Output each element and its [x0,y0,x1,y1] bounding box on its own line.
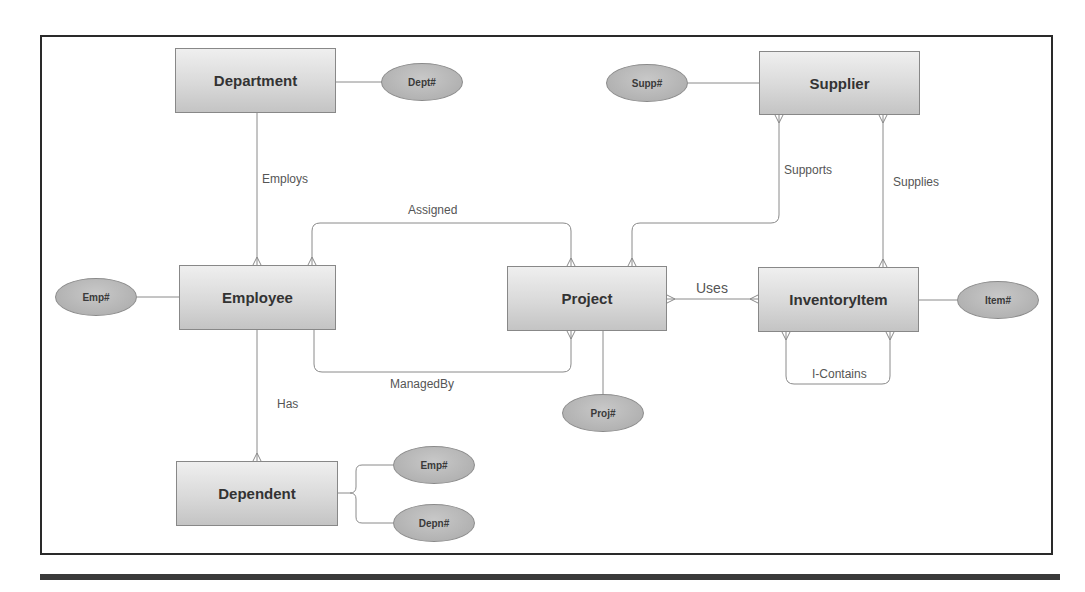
attribute-label: Emp# [82,292,109,303]
attribute-label: Proj# [590,408,615,419]
attribute-dept-key[interactable]: Dept# [381,63,463,101]
attribute-proj-key[interactable]: Proj# [562,394,644,432]
relationship-label-has: Has [277,397,298,411]
attribute-label: Supp# [632,78,663,89]
entity-department[interactable]: Department [175,48,336,113]
assigned-line [312,223,571,266]
attribute-emp-key[interactable]: Emp# [55,278,137,316]
attribute-dependent-emp-key[interactable]: Emp# [393,446,475,484]
attribute-label: Item# [985,295,1011,306]
entity-project[interactable]: Project [507,266,667,331]
relationship-label-assigned: Assigned [408,203,457,217]
entity-employee[interactable]: Employee [179,265,336,330]
relationship-label-uses: Uses [696,280,728,296]
attribute-item-key[interactable]: Item# [957,281,1039,319]
relationship-label-supports: Supports [784,163,832,177]
entity-label: Employee [222,289,293,306]
managedby-line [314,330,571,372]
relationship-label-managedby: ManagedBy [390,377,454,391]
entity-label: InventoryItem [789,291,887,308]
attribute-label: Dept# [408,77,436,88]
entity-label: Dependent [218,485,296,502]
entity-supplier[interactable]: Supplier [759,51,920,115]
attribute-supp-key[interactable]: Supp# [606,64,688,102]
supports-line [632,115,779,266]
relationship-label-employs: Employs [262,172,308,186]
entity-dependent[interactable]: Dependent [176,461,338,526]
attribute-label: Depn# [419,518,450,529]
entity-label: Department [214,72,297,89]
attribute-depn-key[interactable]: Depn# [393,504,475,542]
dependent-attr-links [338,465,393,523]
relationship-label-supplies: Supplies [893,175,939,189]
entity-label: Supplier [809,75,869,92]
attribute-label: Emp# [420,460,447,471]
entity-inventoryitem[interactable]: InventoryItem [758,267,919,332]
er-diagram-canvas: Department Employee Dependent Project Su… [0,0,1085,592]
entity-label: Project [562,290,613,307]
relationship-label-icontains: I-Contains [812,367,867,381]
